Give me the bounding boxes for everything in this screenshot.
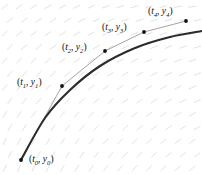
slope-field-dash <box>104 165 108 171</box>
slope-field-dash <box>194 153 200 157</box>
data-points <box>19 19 188 162</box>
data-point-t3 <box>142 30 146 34</box>
slope-field-dash <box>131 32 137 35</box>
slope-field-dash <box>165 19 172 21</box>
slope-field-dash <box>31 112 35 118</box>
slope-field-dash <box>80 125 85 130</box>
slope-field-dash <box>16 31 21 35</box>
slope-field-dash <box>102 5 109 8</box>
slope-field-dash <box>165 99 171 103</box>
slope-field-dash <box>22 98 26 104</box>
slope-field-dash <box>132 166 137 171</box>
slope-field-dash <box>75 165 79 171</box>
slope-field-dash <box>64 18 70 21</box>
slope-field-dash <box>2 31 7 36</box>
slope-field-dash <box>94 99 99 104</box>
data-point-t0 <box>19 158 23 162</box>
slope-field-dash <box>189 59 196 61</box>
slope-field-dash <box>65 125 69 130</box>
point-label-t1: (t1, y1) <box>17 78 42 89</box>
slope-field-dash <box>108 125 113 130</box>
slope-field-dash <box>146 139 151 144</box>
slope-field-dash <box>194 99 200 102</box>
slope-field-dash <box>161 139 166 143</box>
slope-field-dash <box>50 18 56 22</box>
slope-field-dash <box>122 99 128 103</box>
slope-field-dash <box>36 98 41 103</box>
slope-field-dash <box>146 112 152 116</box>
slope-field-dash <box>189 113 195 116</box>
euler-polyline <box>21 21 186 160</box>
slope-field-dash <box>65 72 70 77</box>
slope-field-dash <box>8 125 12 131</box>
slope-field-dash <box>79 19 85 22</box>
slope-field-dash <box>75 139 79 145</box>
point-label-t2: (t2, y2) <box>62 43 87 54</box>
slope-field-dash <box>161 166 166 171</box>
slope-field-dash <box>61 165 65 171</box>
slope-field-dash <box>190 166 195 171</box>
slope-field-dash <box>88 32 94 35</box>
slope-field-dash <box>45 32 51 36</box>
slope-field-dash <box>88 5 94 8</box>
slope-field-dash <box>89 139 94 144</box>
slope-field-dash <box>94 152 98 158</box>
slope-field-dash <box>74 112 79 117</box>
slope-field-dash <box>60 112 65 117</box>
slope-field-dash <box>194 73 201 76</box>
slope-field-dash <box>151 46 157 49</box>
slope-field-dash <box>137 99 143 103</box>
slope-field-dash <box>80 152 84 158</box>
slope-field-dash <box>89 165 93 171</box>
slope-field-dash <box>103 112 108 117</box>
slope-field-dash <box>3 111 7 117</box>
slope-field-dash <box>151 99 157 103</box>
slope-field-dash <box>36 72 41 77</box>
slope-field-dash <box>194 20 201 21</box>
slope-field-dash <box>151 19 158 21</box>
slope-field-dash <box>60 58 65 62</box>
slope-field-dash <box>132 139 137 144</box>
slope-field-dash <box>132 86 138 90</box>
slope-field-dash <box>175 59 182 62</box>
slope-field-dash <box>46 85 51 90</box>
slope-field-dash <box>31 32 37 36</box>
slope-field-dash <box>3 165 6 171</box>
slope-field-dash <box>17 112 21 118</box>
slope-field-dash <box>3 85 7 91</box>
slope-field-dash <box>160 86 166 89</box>
slope-field-dash <box>146 59 152 62</box>
point-label-t4: (t4, y4) <box>148 7 173 18</box>
slope-field-dash <box>31 5 37 9</box>
slope-field-dash <box>118 166 122 171</box>
slope-field-dash <box>180 46 187 48</box>
slope-field-dash <box>50 45 56 49</box>
slope-field-dash <box>2 58 7 63</box>
slope-field-dash <box>122 72 128 76</box>
slope-field-dash <box>117 85 123 89</box>
slope-field-dash <box>189 139 195 143</box>
slope-field-dash <box>74 32 80 36</box>
slope-field-dash <box>161 112 167 116</box>
slope-field-dash <box>175 113 181 117</box>
slope-field-dash <box>31 58 36 63</box>
slope-field-dash <box>166 153 171 158</box>
slope-field-dash <box>166 126 172 130</box>
slope-field-dash <box>160 33 167 35</box>
slope-field-dash <box>175 166 180 171</box>
slope-field-dash <box>103 85 109 89</box>
slope-field-dash <box>7 71 12 76</box>
slope-field-dash <box>117 6 124 8</box>
slope-field-dash <box>22 45 27 50</box>
slope-field-dash <box>45 58 50 63</box>
slope-field-dash <box>46 138 50 144</box>
slope-field-dash <box>94 125 99 130</box>
slope-field-dash <box>60 32 66 36</box>
slope-field-dash <box>123 126 128 131</box>
data-point-t1 <box>60 84 64 88</box>
slope-field-dash <box>3 138 6 144</box>
slope-field-dash <box>8 98 12 104</box>
slope-field-dash <box>17 138 20 144</box>
point-label-t3: (t3, y3) <box>102 23 127 34</box>
slope-field-dash <box>18 165 21 171</box>
